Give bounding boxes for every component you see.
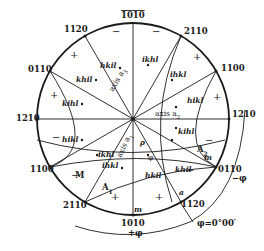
svg-text:−: − <box>112 26 120 37</box>
pole-label-1210-l: 1210 <box>16 113 40 123</box>
pole-label-1120-lr: 1120 <box>181 199 205 209</box>
pole-label-2110-ll: 2110 <box>63 200 87 210</box>
pole-label-top: 1010 <box>121 10 145 20</box>
index-hkil-1: hkil <box>100 61 116 70</box>
phi-label: φ <box>148 153 153 162</box>
point-a: a <box>179 188 184 197</box>
pole-label-1100-ur: 1100 <box>221 63 245 73</box>
rho-label: ρ <box>139 138 146 147</box>
pole-label-0110-l: 0110 <box>28 64 52 74</box>
index-ihkl-6: ihkl <box>170 70 186 79</box>
index-hikl-4: hikl <box>62 135 78 144</box>
svg-text:−: − <box>186 165 194 176</box>
pole-label-2110-ur: 2110 <box>184 26 208 36</box>
index-khil-2: khil <box>76 75 92 84</box>
pole-label-1100-ll: 1100 <box>30 164 54 174</box>
plus-phi-label: +φ <box>128 228 143 238</box>
index-kihl-3: kihl <box>62 99 78 108</box>
point-m-bottom: m <box>134 205 142 214</box>
index-ihkl-9: ihkl <box>102 161 118 170</box>
index-hikl-7: hikl <box>187 96 203 105</box>
svg-text:+: + <box>111 191 119 202</box>
svg-text:−: − <box>52 132 60 143</box>
svg-text:−: − <box>152 26 160 37</box>
pole-label-1010-b: 1010 <box>121 218 145 228</box>
svg-text:+: + <box>50 89 58 100</box>
stereographic-projection: 1010 1120 0110 1210 1100 2110 1010 1120 … <box>0 0 264 251</box>
svg-text:+: + <box>155 191 163 202</box>
index-kihl-10: kihl <box>178 127 194 136</box>
index-ikhl-5: ikhl <box>142 55 158 64</box>
svg-text:+: + <box>70 49 78 60</box>
phi-zero-label: φ=0°00′ <box>197 218 237 228</box>
axis-a2-label: axis a2 <box>155 109 180 120</box>
pole-label-1210-r: 1210 <box>232 109 256 119</box>
index-hkil-12: hkil <box>145 171 161 180</box>
svg-text:−: − <box>71 170 79 181</box>
svg-text:+: + <box>193 51 201 62</box>
minus-phi-label: −φ <box>232 173 247 183</box>
pole-label-1120-ul: 1120 <box>64 24 88 34</box>
point-m-right: m <box>204 153 212 162</box>
svg-text:+: + <box>213 91 221 102</box>
svg-text:−: − <box>205 135 213 146</box>
index-ikhl-8: ikhl <box>98 150 114 159</box>
